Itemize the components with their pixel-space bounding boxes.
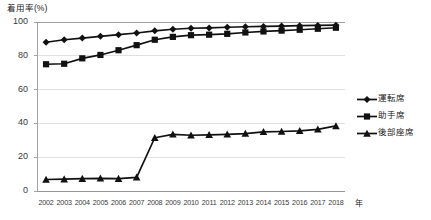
data-point-marker: [134, 42, 140, 48]
data-point-marker: [206, 24, 213, 31]
data-point-marker: [97, 52, 103, 58]
legend-item-label: 後部座席: [378, 125, 414, 137]
y-tick-label: 80: [2, 50, 28, 60]
data-point-marker: [43, 61, 49, 67]
data-point-marker: [115, 47, 121, 53]
legend-marker-square-icon: [357, 108, 377, 119]
data-point-marker: [133, 29, 140, 36]
data-point-marker: [333, 25, 339, 31]
y-tick-label: 100: [2, 16, 28, 26]
y-tick-label: 40: [2, 117, 28, 127]
x-tick-label: 2018: [323, 198, 349, 207]
data-point-marker: [315, 26, 321, 32]
legend-marker-diamond-icon: [357, 91, 377, 102]
data-point-marker: [278, 28, 284, 34]
data-point-marker: [364, 96, 371, 103]
legend-item[interactable]: 後部座席: [357, 122, 431, 139]
data-point-marker: [152, 37, 158, 43]
y-tick-label: 60: [2, 84, 28, 94]
chart-container: 着用率(%) 020406080100 20022003200420052006…: [0, 0, 431, 220]
gridlines: [37, 22, 345, 191]
legend-item[interactable]: 助手席: [357, 105, 431, 122]
x-axis-unit-label: 年: [355, 197, 363, 208]
legend-item-label: 運転席: [378, 91, 405, 103]
data-point-marker: [188, 32, 194, 38]
data-point-marker: [170, 34, 176, 40]
data-point-marker: [188, 25, 195, 32]
data-series-layer: [42, 22, 339, 183]
data-point-marker: [364, 113, 370, 119]
data-point-marker: [79, 55, 85, 61]
data-point-marker: [61, 36, 68, 43]
data-point-marker: [224, 31, 230, 37]
plot-frame: [34, 22, 345, 191]
legend-item-label: 助手席: [378, 108, 405, 120]
data-point-marker: [79, 35, 86, 42]
data-point-marker: [242, 29, 248, 35]
data-point-marker: [61, 61, 67, 67]
legend-item[interactable]: 運転席: [357, 88, 431, 105]
data-point-marker: [297, 27, 303, 33]
data-point-marker: [151, 27, 158, 34]
data-point-marker: [43, 39, 50, 46]
data-point-marker: [242, 23, 249, 30]
y-tick-label: 20: [2, 151, 28, 161]
data-point-marker: [97, 33, 104, 40]
data-point-marker: [115, 31, 122, 38]
data-point-marker: [260, 28, 266, 34]
data-point-marker: [169, 26, 176, 33]
y-tick-label: 0: [2, 185, 28, 195]
data-point-marker: [224, 24, 231, 31]
chart-legend: 運転席助手席後部座席: [357, 88, 431, 139]
data-point-marker: [206, 32, 212, 38]
legend-marker-triangle-icon: [357, 125, 377, 136]
